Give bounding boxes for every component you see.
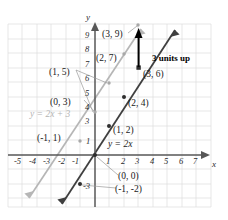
point-label-0-0: (0, 0) [118,172,139,182]
x-tick-1: 1 [106,157,110,166]
three-units-up-annotation: 3 units up [152,54,190,63]
graph-figure: 9 8 7 6 5 4 3 1 -3 -5 -4 -3 -2 -1 1 2 3 … [0,0,228,220]
point-label-0-3: (0, 3) [50,98,71,108]
point-label-1-2: (1, 2) [113,126,134,136]
equation-label-gray: y = 2x + 3 [30,110,70,120]
point-label-1-5: (1, 5) [49,68,70,78]
x-tick-7: 7 [193,157,197,166]
x-tick-minus-3: -3 [43,157,50,166]
point-label-2-7: (2, 7) [96,54,117,64]
y-tick-minus-3: -3 [83,182,90,191]
equation-label-dark: y = 2x [108,140,132,150]
x-axis-label: x [212,160,216,169]
x-tick-minus-1: -1 [72,157,79,166]
y-tick-7: 7 [85,60,89,69]
y-tick-6: 6 [85,74,89,83]
y-tick-3: 3 [85,117,89,126]
y-tick-5: 5 [85,89,89,98]
y-axis-label: y [86,13,90,22]
y-tick-1: 1 [86,137,90,146]
x-tick-minus-4: -4 [29,157,36,166]
x-tick-4: 4 [150,157,154,166]
y-tick-8: 8 [85,45,89,54]
x-tick-6: 6 [179,157,183,166]
x-tick-minus-5: -5 [14,157,21,166]
y-tick-9: 9 [85,31,89,40]
y-tick-4: 4 [85,103,89,112]
point-label-minus1-minus2: (-1, -2) [115,185,142,195]
point-label-2-4: (2, 4) [128,99,149,109]
point-label-3-6: (3, 6) [143,70,164,80]
x-tick-3: 3 [135,157,139,166]
x-tick-5: 5 [164,157,168,166]
x-tick-2: 2 [121,157,125,166]
point-label-minus1-1: (-1, 1) [37,134,61,144]
x-tick-minus-2: -2 [58,157,65,166]
point-label-3-9: (3, 9) [102,30,123,40]
